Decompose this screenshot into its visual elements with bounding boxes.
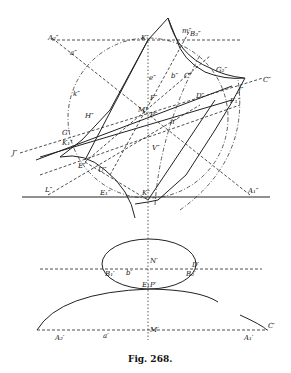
geometry-figure: A₂″ a″ K″ m″ B₂″ e″ b″ C″ G₂″ C″ k″ D″ J… xyxy=(0,0,291,373)
dashed-line-J-C xyxy=(20,78,263,153)
label-Lpp: L″ xyxy=(44,186,53,194)
large-arc xyxy=(37,289,218,330)
figure-caption: Fig. 268. xyxy=(128,354,172,364)
label-Dpp: D″ xyxy=(195,92,205,100)
outline-left xyxy=(60,40,148,157)
label-Upp: U″ xyxy=(98,166,107,174)
label-Jcpp: J″ xyxy=(10,149,18,157)
label-Gpp: G″ xyxy=(62,129,71,137)
label-app: a″ xyxy=(70,49,77,57)
label-A1pp: A₁″ xyxy=(247,187,259,195)
label-npp: n″ xyxy=(170,118,178,126)
label-kpp: k″ xyxy=(73,90,80,98)
label-Mp: M′ xyxy=(149,326,159,334)
label-Fpp: F″ xyxy=(149,94,158,102)
label-Epp: E″ xyxy=(77,162,86,170)
label-A2p: A₂′ xyxy=(54,334,65,342)
label-A2pp: A₂″ xyxy=(47,34,59,42)
label-ap: a′ xyxy=(103,332,109,340)
solid-line-3 xyxy=(85,40,148,160)
label-Cpp-small: C″ xyxy=(184,72,192,80)
label-K1pp: K₁″ xyxy=(61,139,73,147)
dashed-line-G xyxy=(85,162,148,200)
label-B1p: B₁′ xyxy=(104,270,115,278)
large-arc-right xyxy=(240,315,267,330)
label-Kpp: K″ xyxy=(140,34,149,42)
label-epp: e″ xyxy=(149,74,156,82)
label-E1Pp: E₁P′ xyxy=(141,281,157,289)
label-Ppp: P″ xyxy=(149,111,158,119)
label-Cp: C′ xyxy=(268,322,275,330)
label-Mpp: M″ xyxy=(137,106,148,114)
label-A1p: A₁′ xyxy=(243,334,254,342)
label-B2p: B₂′ xyxy=(185,270,196,278)
label-Cpp: C″ xyxy=(263,76,271,84)
label-bp: b′ xyxy=(126,269,132,277)
label-Jpp: J″ xyxy=(236,86,244,94)
label-Vpp: V″ xyxy=(152,144,160,152)
label-E1pp: E₁″ xyxy=(99,189,111,197)
dashed-line-L xyxy=(48,105,200,195)
label-B2pp: B₂″ xyxy=(189,30,201,38)
label-G2pp: G₂″ xyxy=(216,66,227,74)
label-Hpp: H″ xyxy=(84,112,94,120)
label-Kpp-lower: K″ xyxy=(141,189,150,197)
label-bpp: b″ xyxy=(171,72,178,80)
label-Np: N′ xyxy=(149,257,158,265)
label-Dp: D′ xyxy=(191,261,200,269)
label-F1pp: F₁″ xyxy=(229,97,241,105)
